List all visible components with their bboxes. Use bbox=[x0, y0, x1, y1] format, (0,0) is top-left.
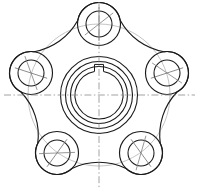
technical-drawing-canvas bbox=[0, 0, 199, 190]
boss-bottom-right-radial-tick bbox=[131, 139, 151, 167]
centerline-group bbox=[4, 2, 195, 188]
boss-right-radial-tick bbox=[151, 68, 183, 79]
boss-left-radial-tick bbox=[15, 68, 47, 79]
flange-hub-drawing bbox=[0, 0, 199, 190]
